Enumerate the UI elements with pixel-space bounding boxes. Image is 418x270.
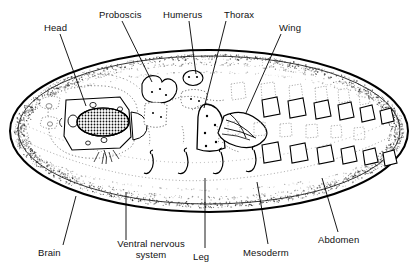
label-mesoderm: Mesoderm	[243, 247, 289, 258]
label-humerus: Humerus	[163, 9, 202, 20]
label-proboscis: Proboscis	[99, 9, 142, 20]
leader-brain	[63, 196, 76, 245]
label-brain: Brain	[38, 247, 61, 258]
brain-primordium	[77, 108, 129, 136]
label-abdomen: Abdomen	[318, 234, 359, 245]
label-thorax: Thorax	[224, 9, 254, 20]
label-head: Head	[44, 22, 67, 33]
label-wing: Wing	[279, 22, 301, 33]
diagram-canvas	[0, 0, 418, 270]
label-leg: Leg	[193, 251, 209, 262]
label-ventral-nervous-system: Ventral nervous system	[104, 238, 198, 260]
embryo-fate-map-figure: Head Proboscis Humerus Thorax Wing Brain…	[0, 0, 418, 270]
